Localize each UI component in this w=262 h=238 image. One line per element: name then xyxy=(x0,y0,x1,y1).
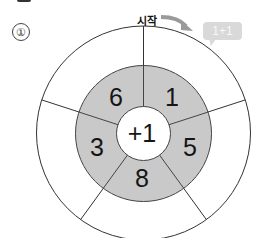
ring-number-right: 5 xyxy=(183,133,197,161)
ring-number-left: 3 xyxy=(90,133,104,161)
ring-number-top-right: 1 xyxy=(165,83,179,111)
ring-number-top-left: 6 xyxy=(109,83,123,111)
bubble-tail xyxy=(209,39,216,46)
center-operation: +1 xyxy=(128,119,157,147)
number-wheel: +1 6 1 5 8 3 xyxy=(0,0,262,238)
ring-number-bottom: 8 xyxy=(135,164,149,192)
